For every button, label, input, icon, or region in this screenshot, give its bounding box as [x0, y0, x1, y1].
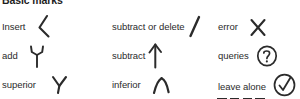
- mark-entry-leave-alone: leave alone: [218, 70, 300, 99]
- mark-entry-subtract-or-delete: subtract or delete: [112, 12, 212, 42]
- marks-row: add subtract queries: [0, 41, 300, 71]
- mark-label: inferior: [112, 80, 141, 90]
- mark-label: error: [218, 22, 238, 32]
- y-add-mark: [29, 44, 45, 69]
- mark-entry-error: error: [218, 12, 300, 42]
- insert-caret-mark: [36, 15, 51, 39]
- mark-label: add: [2, 51, 18, 61]
- up-arrow-subtract-mark: [148, 43, 163, 69]
- inverted-caret-inferior-mark: [152, 76, 171, 95]
- basic-marks-sheet: Basic marks Insert subtract or delete er…: [0, 0, 300, 99]
- mark-label: Insert: [2, 22, 25, 32]
- page-title: Basic marks: [2, 0, 63, 6]
- mark-label: leave alone: [218, 81, 266, 92]
- y-superior-mark: [51, 75, 68, 95]
- mark-entry-insert: Insert: [2, 12, 106, 42]
- x-cross-mark: [249, 17, 267, 37]
- leave-alone-label-group: leave alone: [218, 76, 266, 94]
- slash-delete-mark: [188, 15, 201, 39]
- mark-label: superior: [2, 80, 36, 90]
- mark-entry-queries: queries: [218, 41, 300, 71]
- mark-entry-add: add: [2, 41, 106, 71]
- mark-entry-superior: superior: [2, 70, 106, 99]
- mark-label: queries: [218, 51, 249, 61]
- marks-row: superior inferior leave alone: [0, 70, 300, 99]
- mark-label: subtract: [112, 51, 145, 61]
- mark-entry-inferior: inferior: [112, 70, 212, 99]
- circled-question-mark: [256, 45, 278, 67]
- mark-entry-subtract: subtract: [112, 41, 212, 71]
- stet-dashed-underline: [217, 98, 265, 99]
- circled-check-mark: [273, 73, 297, 97]
- mark-label: subtract or delete: [112, 22, 185, 32]
- marks-row: Insert subtract or delete error: [0, 12, 300, 42]
